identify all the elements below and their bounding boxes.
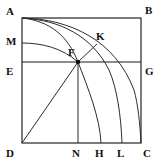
arc-a-h [22,18,101,143]
vertex-label-h: H [95,148,104,159]
vertex-label-m: M [6,36,16,47]
vertex-label-c: C [143,148,151,159]
arc-a-l [22,18,122,143]
vertex-label-g: G [145,66,154,77]
geometry-figure: A B M K F E G D N H L C [0,0,161,166]
segment-fd [22,62,78,143]
point-f-marker [76,60,80,64]
segment-fk [78,44,97,62]
vertex-label-e: E [6,66,13,77]
vertex-label-d: D [6,148,14,159]
vertex-label-b: B [145,5,152,16]
vertex-label-a: A [6,6,14,17]
vertex-label-f: F [68,47,75,58]
figure-canvas [0,0,161,166]
vertex-label-k: K [96,31,105,42]
vertex-label-n: N [72,148,80,159]
vertex-label-l: L [117,148,124,159]
